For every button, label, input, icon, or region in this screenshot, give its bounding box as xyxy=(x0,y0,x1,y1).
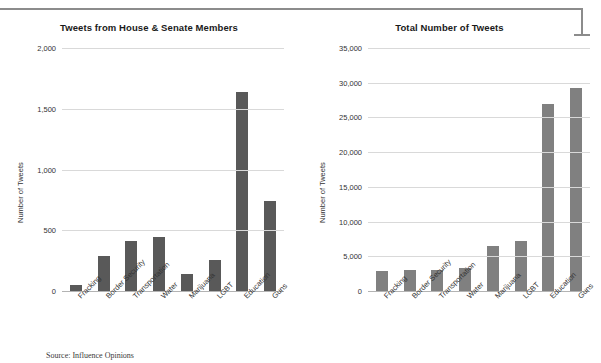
gridline xyxy=(62,230,284,231)
bar xyxy=(236,92,248,291)
y-axis-tick-label: 0 xyxy=(298,287,362,296)
bar-slot xyxy=(396,48,424,291)
gridline xyxy=(368,117,590,118)
gridline xyxy=(62,170,284,171)
figure-page: Tweets from House & Senate Members Numbe… xyxy=(0,0,601,363)
y-axis-tick-label: 10,000 xyxy=(298,217,362,226)
bar-slot xyxy=(535,48,563,291)
gridline xyxy=(368,222,590,223)
gridline xyxy=(62,48,284,49)
y-axis-title-right: Number of Tweets xyxy=(318,162,327,223)
y-axis-tick-label: 2,000 xyxy=(0,44,56,53)
y-axis-tick-label: 35,000 xyxy=(298,44,362,53)
y-axis-tick-label: 15,000 xyxy=(298,182,362,191)
gridline xyxy=(368,187,590,188)
y-axis-tick-label: 20,000 xyxy=(298,148,362,157)
plot-area-left xyxy=(62,48,284,291)
bar-slot xyxy=(479,48,507,291)
y-axis-tick-label: 500 xyxy=(0,226,56,235)
bar-slot xyxy=(451,48,479,291)
chart-house-senate: Tweets from House & Senate Members Numbe… xyxy=(0,18,298,348)
x-axis-labels-left: FrackingBorder SecurityTransportationWat… xyxy=(0,294,298,363)
gridline xyxy=(368,83,590,84)
bar xyxy=(98,256,110,291)
bar-series-right xyxy=(368,48,590,291)
top-rule-divider xyxy=(0,8,583,10)
gridline xyxy=(368,48,590,49)
chart-title-total-tweets: Total Number of Tweets xyxy=(298,22,601,33)
y-axis-tick-label: 30,000 xyxy=(298,78,362,87)
bar xyxy=(487,246,499,291)
plot-area-right xyxy=(368,48,590,291)
y-axis-tick-label: 5,000 xyxy=(298,252,362,261)
bar-slot xyxy=(562,48,590,291)
bar xyxy=(515,241,527,291)
chart-title-house-senate: Tweets from House & Senate Members xyxy=(0,22,298,33)
bar-slot xyxy=(424,48,452,291)
x-axis-labels-right: FrackingBorder SecurityTransportationWat… xyxy=(298,294,601,363)
chart-total-tweets: Total Number of Tweets Number of Tweets … xyxy=(298,18,601,348)
bar xyxy=(542,104,554,291)
source-note: Source: Influence Opinions xyxy=(46,351,134,360)
gridline xyxy=(368,152,590,153)
gridline xyxy=(62,109,284,110)
y-axis-tick-label: 1,500 xyxy=(0,104,56,113)
bar-slot xyxy=(368,48,396,291)
y-axis-tick-label: 1,000 xyxy=(0,165,56,174)
y-axis-tick-label: 25,000 xyxy=(298,113,362,122)
bar-slot xyxy=(507,48,535,291)
y-axis-tick-label: 0 xyxy=(0,287,56,296)
gridline xyxy=(368,256,590,257)
